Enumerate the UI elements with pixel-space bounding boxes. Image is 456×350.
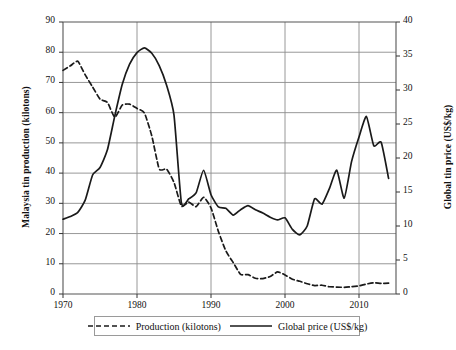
y-axis-left-tick-label: 80 [33,45,55,55]
y-axis-right-tick-label: 10 [403,219,425,229]
y-axis-right-tick-label: 20 [403,151,425,161]
data-series-layer [63,48,389,288]
chart-legend: Production (kilotons) Global price (US$/… [94,316,360,336]
y-axis-left-tick-label: 0 [33,287,55,297]
series-line-price [63,48,389,235]
y-axis-right-tick-label: 5 [403,253,425,263]
x-axis-tick-label: 2010 [339,300,379,310]
y-axis-left-tick-label: 40 [33,166,55,176]
gridlines [63,22,396,294]
x-axis-tick-label: 1970 [43,300,83,310]
x-axis-tick-label: 1980 [117,300,157,310]
y-axis-left-tick-label: 70 [33,75,55,85]
y-axis-left-tick-label: 50 [33,136,55,146]
y-axis-left-tick-label: 60 [33,106,55,116]
chart-figure: Malaysia tin production (kilotons) Globa… [0,0,456,350]
legend-label-price: Global price (US$/kg) [278,321,367,332]
y-axis-right-tick-label: 15 [403,185,425,195]
y-axis-right-tick-label: 40 [403,15,425,25]
legend-swatch-dashed [87,321,131,331]
y-axis-left-title: Malaysia tin production (kilotons) [21,67,31,247]
series-line-production [63,61,389,287]
legend-item-price: Global price (US$/kg) [225,321,371,332]
plot-frame [63,22,396,294]
y-axis-right-tick-label: 35 [403,49,425,59]
x-axis-tick-label: 1990 [191,300,231,310]
y-axis-right-tick-label: 30 [403,83,425,93]
y-axis-left-tick-label: 30 [33,196,55,206]
y-axis-right-title: Global tin price (US$/kg) [443,67,453,247]
chart-canvas [0,0,456,350]
legend-item-production: Production (kilotons) [83,321,225,332]
axis-ticks [59,22,400,298]
y-axis-left-tick-label: 90 [33,15,55,25]
legend-swatch-solid [229,321,273,331]
x-axis-tick-label: 2000 [265,300,305,310]
y-axis-left-tick-label: 10 [33,257,55,267]
legend-label-production: Production (kilotons) [136,321,221,332]
y-axis-left-tick-label: 20 [33,227,55,237]
y-axis-right-tick-label: 0 [403,287,425,297]
y-axis-right-tick-label: 25 [403,117,425,127]
